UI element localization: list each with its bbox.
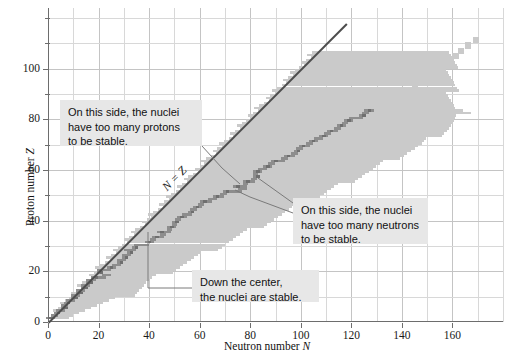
leader-stable-center [148, 232, 192, 288]
annotation-too-many-neutrons: On this side, the nucleihave too many ne… [293, 198, 428, 244]
annotation-line: On this side, the nuclei [301, 203, 421, 218]
annotation-line: have too many protons [68, 120, 195, 135]
leader-too-many-neutrons [235, 190, 293, 213]
annotation-line: Down the center, [200, 275, 312, 290]
annotation-line: have too many neutrons [301, 218, 421, 233]
annotation-line: to be stable. [68, 134, 195, 149]
leader-too-many-neutrons-upper [258, 178, 293, 203]
x-axis-title: Neutron number N [224, 340, 310, 352]
leader-too-many-protons [202, 146, 240, 184]
annotation-too-many-protons: On this side, the nucleihave too many pr… [60, 100, 202, 146]
annotation-line: On this side, the nuclei [68, 105, 195, 120]
annotation-stable-center: Down the center,the nuclei are stable. [192, 270, 319, 302]
y-axis-title-text: Proton number [24, 154, 36, 226]
annotation-line: to be stable. [301, 232, 421, 247]
y-axis-title: Proton number Z [24, 148, 36, 226]
annotation-line: the nuclei are stable. [200, 290, 312, 305]
x-axis-title-symbol: N [303, 340, 311, 352]
x-axis-title-text: Neutron number [224, 340, 303, 352]
leader-lines [0, 0, 515, 358]
nuclide-stability-figure: 020406080100120140160020406080100 N = Z … [0, 0, 515, 358]
y-axis-title-symbol: Z [24, 148, 36, 154]
